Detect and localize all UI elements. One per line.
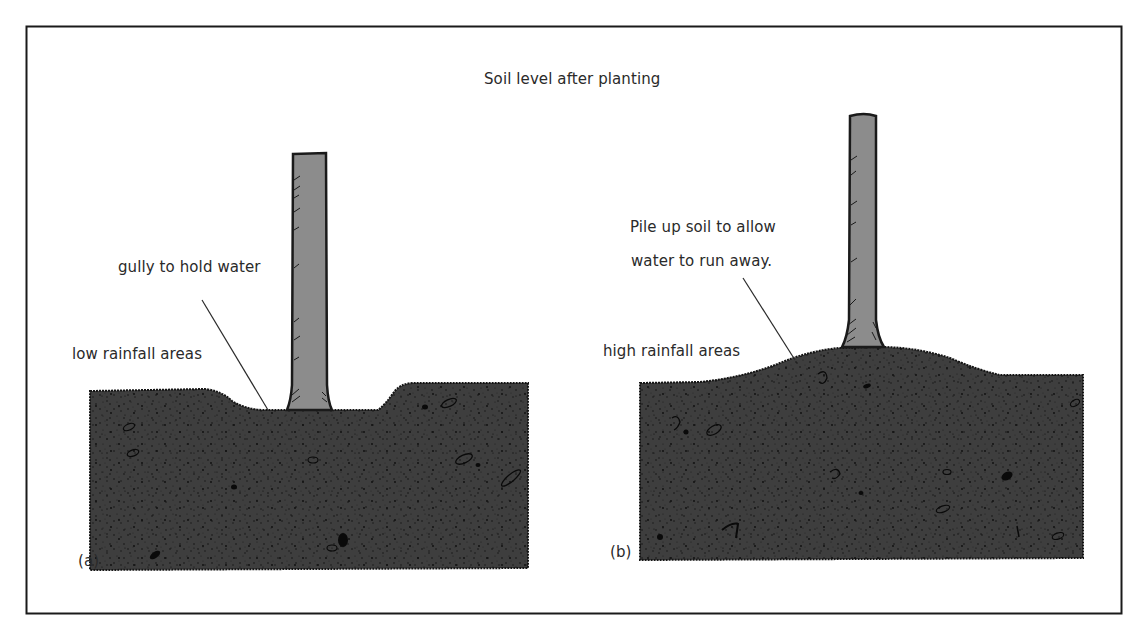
leader-line-mound (743, 278, 795, 360)
panel-tag-a: (a) (78, 552, 99, 570)
tree-trunk-b (842, 114, 884, 347)
annotation-mound-line-1: Pile up soil to allow (630, 218, 776, 236)
diagram-canvas (0, 0, 1133, 642)
area-label-high-rainfall: high rainfall areas (603, 342, 740, 360)
panel-b (640, 114, 1083, 560)
diagram-title: Soil level after planting (484, 70, 660, 88)
area-label-low-rainfall: low rainfall areas (72, 345, 202, 363)
panel-tag-b: (b) (610, 543, 632, 561)
annotation-mound-line-2: water to run away. (631, 252, 772, 270)
annotation-gully: gully to hold water (118, 258, 261, 276)
tree-trunk-a (287, 153, 332, 410)
